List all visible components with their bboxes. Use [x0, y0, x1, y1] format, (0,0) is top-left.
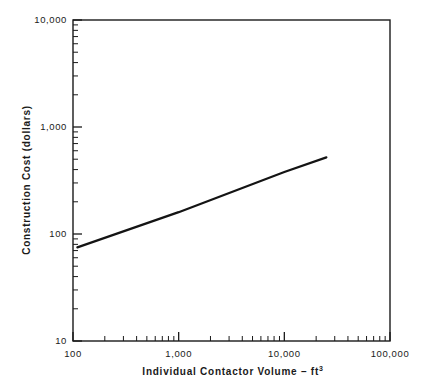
x-axis-title-superscript: 3 [319, 365, 324, 372]
x-tick-label: 10,000 [268, 348, 301, 359]
x-axis-title: Individual Contactor Volume – ft3 [142, 365, 323, 377]
data-series-group [77, 157, 326, 247]
y-tick-label: 10 [55, 335, 67, 346]
x-tick-label: 100 [64, 348, 82, 359]
y-axis-title: Construction Cost (dollars) [21, 105, 32, 255]
data-line [77, 157, 326, 247]
x-axis-tick-labels: 1001,00010,000100,000 [64, 348, 409, 359]
y-tick-label: 10,000 [34, 14, 67, 25]
y-axis-ticks [73, 20, 82, 341]
log-log-chart: 101001,00010,000 1001,00010,000100,000 C… [0, 0, 423, 388]
figure-canvas: 101001,00010,000 1001,00010,000100,000 C… [0, 0, 423, 388]
plot-frame [73, 20, 390, 341]
x-axis-ticks [73, 332, 390, 341]
y-axis-tick-labels: 101001,00010,000 [34, 14, 67, 346]
y-tick-label: 1,000 [40, 121, 67, 132]
x-axis-title-text: Individual Contactor Volume – ft [142, 366, 319, 377]
x-tick-label: 1,000 [165, 348, 192, 359]
y-tick-label: 100 [49, 228, 67, 239]
x-tick-label: 100,000 [371, 348, 410, 359]
